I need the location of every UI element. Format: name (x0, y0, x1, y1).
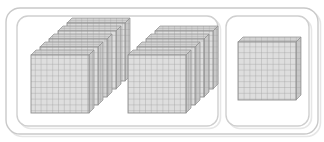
stack-right-one (238, 37, 301, 100)
base-ten-blocks-figure (0, 0, 324, 142)
stack-right-one-flat-0 (238, 37, 301, 100)
flat-side-face (107, 34, 112, 97)
flat-side-face (186, 50, 191, 113)
flat-top-face (137, 42, 200, 47)
blocks-canvas (0, 0, 324, 142)
flat-side-face (89, 50, 94, 113)
flat-top-face (128, 50, 191, 55)
flat-top-face (40, 42, 103, 47)
flat-top-face (31, 50, 94, 55)
flat-top-face (49, 34, 112, 39)
flat-top-face (67, 18, 130, 23)
flat-side-face (213, 26, 218, 89)
flat-front-face (238, 42, 296, 100)
flat-side-face (98, 42, 103, 105)
flat-side-face (204, 34, 209, 97)
stack-left-five-flat-0 (31, 50, 94, 113)
flat-side-face (296, 37, 301, 100)
flat-top-face (146, 34, 209, 39)
flat-side-face (195, 42, 200, 105)
stack-left-four-flat-0 (128, 50, 191, 113)
flat-side-face (116, 26, 121, 89)
flat-front-face (31, 55, 89, 113)
flat-top-face (58, 26, 121, 31)
flat-front-face (128, 55, 186, 113)
flat-top-face (155, 26, 218, 31)
flat-top-face (238, 37, 301, 42)
